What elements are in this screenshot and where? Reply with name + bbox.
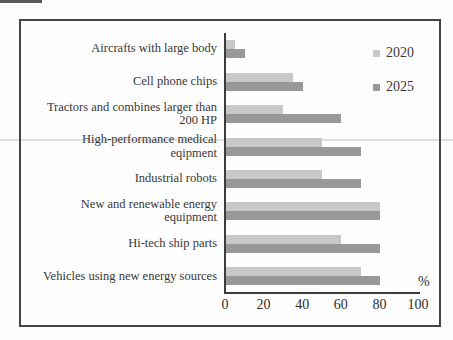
- x-axis-unit-label: %: [418, 274, 430, 290]
- category-row: Industrial robots: [0, 163, 453, 195]
- category-label: Cell phone chips: [0, 75, 222, 89]
- bar-2025: [226, 244, 380, 253]
- bar-2025: [226, 179, 361, 188]
- bar-2025: [226, 49, 245, 58]
- category-row: Vehicles using new energy sources: [0, 260, 453, 292]
- bar-group: [226, 235, 380, 253]
- bar-2020: [226, 170, 323, 179]
- category-row: High-performance medicaleqipment: [0, 130, 453, 162]
- category-row: Tractors and combines larger than200 HP: [0, 98, 453, 130]
- bar-group: [226, 73, 303, 91]
- legend-swatch-2025: [373, 84, 380, 91]
- bar-group: [226, 138, 361, 156]
- bar-2025: [226, 147, 361, 156]
- x-tick-label: 40: [295, 297, 309, 313]
- legend-label: 2020: [386, 45, 414, 61]
- x-axis-line: [224, 292, 420, 294]
- bar-2020: [226, 138, 323, 147]
- legend: 20202025: [373, 46, 414, 94]
- category-label: Vehicles using new energy sources: [0, 270, 222, 284]
- bar-group: [226, 105, 342, 123]
- legend-label: 2025: [386, 79, 414, 95]
- category-label: Tractors and combines larger than200 HP: [0, 101, 222, 128]
- category-label: New and renewable energyequipment: [0, 198, 222, 225]
- bar-2020: [226, 267, 361, 276]
- bar-2025: [226, 276, 380, 285]
- scan-artifact-top-line: [0, 0, 42, 3]
- y-axis-line: [224, 33, 226, 293]
- bar-2025: [226, 114, 342, 123]
- legend-item-2025: 2025: [373, 80, 414, 94]
- bar-2020: [226, 40, 236, 49]
- category-label: Aircrafts with large body: [0, 42, 222, 56]
- x-tick-label: 20: [257, 297, 271, 313]
- legend-item-2020: 2020: [373, 46, 414, 60]
- bar-2025: [226, 82, 303, 91]
- x-tick-label: 0: [222, 297, 229, 313]
- bar-group: [226, 40, 245, 58]
- bar-2020: [226, 202, 380, 211]
- bar-group: [226, 267, 380, 285]
- category-label: Hi-tech ship parts: [0, 237, 222, 251]
- bar-group: [226, 170, 361, 188]
- x-tick-label: 100: [408, 297, 429, 313]
- bar-2025: [226, 211, 380, 220]
- bar-2020: [226, 105, 284, 114]
- x-tick-label: 60: [334, 297, 348, 313]
- bar-2020: [226, 235, 342, 244]
- bar-group: [226, 202, 380, 220]
- bar-2020: [226, 73, 294, 82]
- x-tick-label: 80: [372, 297, 386, 313]
- category-row: New and renewable energyequipment: [0, 195, 453, 227]
- legend-swatch-2020: [373, 50, 380, 57]
- category-row: Hi-tech ship parts: [0, 228, 453, 260]
- category-label: Industrial robots: [0, 172, 222, 186]
- category-label: High-performance medicaleqipment: [0, 133, 222, 160]
